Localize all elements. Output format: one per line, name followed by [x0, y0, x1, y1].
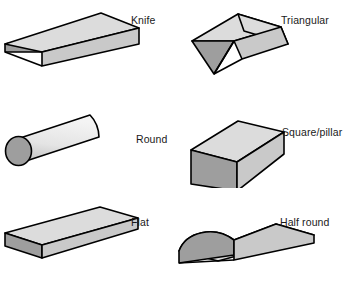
- shape-cell-half-round: Half round: [176, 188, 352, 282]
- shape-cell-round: Round: [0, 94, 176, 188]
- shape-cell-knife: Knife: [0, 0, 176, 94]
- shape-label-square-pillar: Square/pillar: [282, 127, 342, 138]
- shape-label-half-round: Half round: [280, 217, 329, 228]
- square-pillar-file-profile-icon: [176, 94, 352, 188]
- file-profiles-diagram: Knife Triangular: [0, 0, 352, 282]
- shape-cell-triangular: Triangular: [176, 0, 352, 94]
- shape-cell-flat: Flat: [0, 188, 176, 282]
- shape-label-flat: Flat: [131, 217, 149, 228]
- flat-file-profile-icon: [0, 188, 176, 282]
- shape-label-knife: Knife: [131, 15, 155, 26]
- half-round-file-profile-icon: [176, 188, 352, 282]
- shape-label-triangular: Triangular: [281, 15, 329, 26]
- shape-cell-square-pillar: Square/pillar: [176, 94, 352, 188]
- shape-label-round: Round: [136, 134, 167, 145]
